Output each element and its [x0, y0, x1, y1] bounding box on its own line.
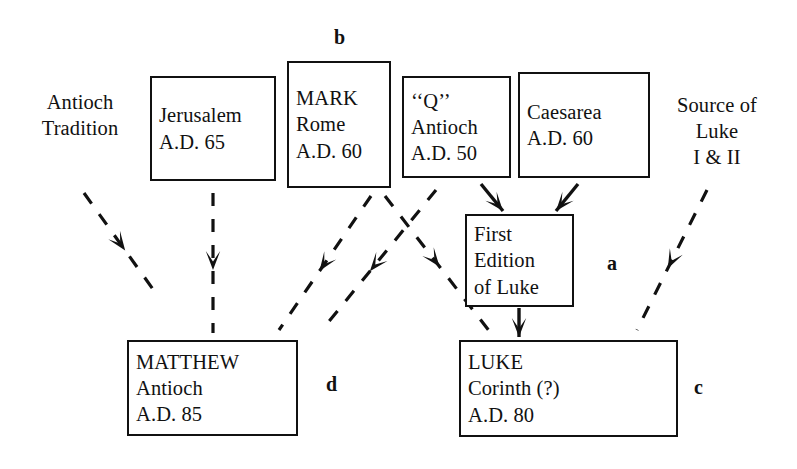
first-edition-of-luke-box-line-2: of Luke — [474, 274, 539, 300]
mark-box-line-1: Rome — [296, 111, 345, 137]
luke-box-line-0: LUKE — [468, 349, 523, 375]
edge-mark-to-matthew-arrowhead — [319, 251, 336, 271]
luke-box-line-1: Corinth (?) — [468, 375, 560, 401]
antioch-tradition-text-text: AntiochTradition — [14, 84, 146, 146]
source-of-luke-text-text: Source ofLukeI & II — [652, 84, 782, 178]
edge-first-edition-to-luke-arrowhead — [512, 318, 526, 337]
mark-box-text: MARKRomeA.D. 60 — [289, 63, 389, 186]
edge-q-to-first-edition — [481, 184, 503, 211]
source-of-luke-text-line-0: Source of — [677, 92, 757, 118]
edge-mark-to-matthew — [279, 196, 371, 330]
antioch-tradition-text-line-0: Antioch — [47, 89, 114, 115]
source-of-luke-text-line-2: I & II — [693, 144, 740, 170]
diagram-canvas: AntiochTraditionJerusalemA.D. 65MARKRome… — [0, 0, 797, 469]
q-box: ‘‘Q’’AntiochA.D. 50 — [402, 76, 511, 178]
jerusalem-box-text: JerusalemA.D. 65 — [152, 78, 274, 179]
antioch-tradition-text: AntiochTradition — [14, 84, 146, 146]
matthew-box-text: MATTHEWAntiochA.D. 85 — [129, 342, 296, 434]
matthew-box-line-0: MATTHEW — [136, 349, 239, 375]
mark-box: MARKRomeA.D. 60 — [287, 61, 391, 188]
callout-label-d: d — [326, 373, 337, 396]
edge-jerusalem-to-matthew-arrowhead — [206, 251, 220, 270]
jerusalem-box-line-0: Jerusalem — [159, 102, 242, 128]
first-edition-of-luke-box-text: FirstEditionof Luke — [467, 216, 572, 305]
q-box-text: ‘‘Q’’AntiochA.D. 50 — [404, 78, 509, 176]
first-edition-of-luke-box: FirstEditionof Luke — [465, 214, 574, 307]
callout-label-b: b — [334, 26, 345, 49]
edge-mark-to-luke-arrowhead — [422, 247, 439, 266]
q-box-line-2: A.D. 50 — [411, 140, 477, 166]
mark-box-line-0: MARK — [296, 85, 358, 111]
edge-source-of-luke-to-luke-arrowhead — [668, 248, 683, 268]
matthew-box: MATTHEWAntiochA.D. 85 — [127, 340, 298, 436]
mark-box-line-2: A.D. 60 — [296, 138, 362, 164]
antioch-tradition-text-line-1: Tradition — [42, 115, 118, 141]
matthew-box-line-1: Antioch — [136, 375, 203, 401]
luke-box-text: LUKECorinth (?)A.D. 80 — [461, 342, 676, 435]
matthew-box-line-2: A.D. 85 — [136, 401, 202, 427]
luke-box-line-2: A.D. 80 — [468, 402, 534, 428]
edge-caesarea-to-first-edition-arrowhead — [556, 192, 574, 211]
source-of-luke-text: Source ofLukeI & II — [652, 84, 782, 178]
edge-caesarea-to-first-edition — [556, 184, 578, 211]
edge-antioch-tradition-to-matthew-arrowhead — [108, 231, 125, 251]
jerusalem-box-line-1: A.D. 65 — [159, 129, 225, 155]
caesarea-box: CaesareaA.D. 60 — [518, 72, 650, 178]
edge-source-of-luke-to-luke — [637, 190, 707, 330]
jerusalem-box: JerusalemA.D. 65 — [150, 76, 276, 181]
edge-first-edition-to-luke — [512, 308, 526, 337]
edge-q-to-first-edition-arrowhead — [485, 192, 503, 211]
q-box-line-0: ‘‘Q’’ — [411, 88, 451, 114]
edge-antioch-tradition-to-matthew — [84, 193, 155, 292]
q-box-line-1: Antioch — [411, 114, 478, 140]
source-of-luke-text-line-1: Luke — [696, 118, 739, 144]
edge-jerusalem-to-matthew — [206, 193, 220, 333]
edge-q-to-matthew — [322, 190, 436, 330]
first-edition-of-luke-box-line-0: First — [474, 221, 512, 247]
callout-label-a: a — [607, 252, 617, 275]
caesarea-box-line-1: A.D. 60 — [527, 125, 593, 151]
caesarea-box-line-0: Caesarea — [527, 99, 602, 125]
callout-label-c: c — [694, 376, 703, 399]
luke-box: LUKECorinth (?)A.D. 80 — [459, 340, 678, 437]
edge-q-to-matthew-arrowhead — [370, 252, 388, 271]
caesarea-box-text: CaesareaA.D. 60 — [520, 74, 648, 176]
first-edition-of-luke-box-line-1: Edition — [474, 247, 535, 273]
